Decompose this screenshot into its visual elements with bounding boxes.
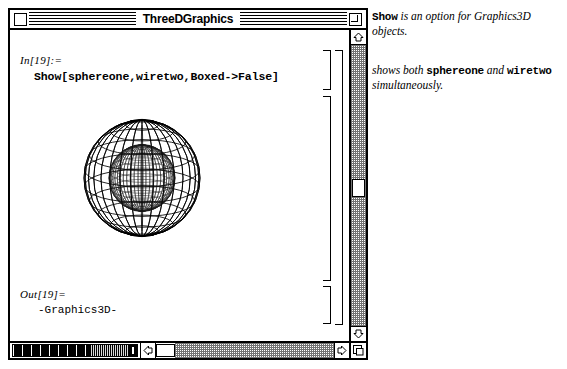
titlebar-stripes-right xyxy=(240,12,347,26)
annotation-segment: and xyxy=(484,64,507,76)
output-cell-label: Out[19]= xyxy=(20,288,66,300)
vertical-scroll-thumb[interactable] xyxy=(352,179,365,197)
resize-grip-glyph xyxy=(353,345,364,356)
titlebar-stripes-left xyxy=(29,12,136,26)
graphics-output-spheres[interactable] xyxy=(82,118,202,238)
close-box-icon[interactable] xyxy=(14,13,27,26)
annotation-segment: wiretwo xyxy=(507,65,552,77)
magnification-handle[interactable] xyxy=(131,346,135,355)
three-d-spheres-svg xyxy=(82,118,202,238)
cell-bracket-input[interactable] xyxy=(323,50,331,90)
scroll-left-arrow-icon[interactable] xyxy=(140,343,156,358)
annotation-segment: simultaneously. xyxy=(372,79,443,91)
cell-bracket-output[interactable] xyxy=(323,286,331,324)
window-titlebar[interactable]: ThreeDGraphics xyxy=(10,10,366,30)
horizontal-scrollbar-bar[interactable] xyxy=(10,341,366,358)
notebook-content-pane[interactable]: In[19]:= Show[sphereone,wiretwo,Boxed->F… xyxy=(10,30,349,341)
input-cell-code[interactable]: Show[sphereone,wiretwo,Boxed->False] xyxy=(34,70,279,83)
cell-bracket-group[interactable] xyxy=(335,50,343,325)
notebook-window: ThreeDGraphics In[19]:= Show[sphereone,w… xyxy=(8,8,368,360)
annotation-show-option: Show is an option for Graphics3D objects… xyxy=(372,10,562,38)
scroll-right-arrow-icon[interactable] xyxy=(334,343,350,358)
annotation-shows-both: shows both sphereone and wiretwo simulta… xyxy=(372,64,562,92)
magnification-filled xyxy=(13,345,90,356)
output-cell-code: -Graphics3D- xyxy=(38,304,117,316)
annotation-segment: shows both xyxy=(372,64,426,76)
zoom-box-icon[interactable] xyxy=(349,13,362,26)
horizontal-scroll-thumb[interactable] xyxy=(156,344,175,357)
left-arrow-glyph xyxy=(143,345,153,356)
vertical-scrollbar[interactable] xyxy=(349,30,366,341)
down-arrow-glyph xyxy=(353,329,364,339)
right-arrow-glyph xyxy=(337,345,347,356)
window-title: ThreeDGraphics xyxy=(136,12,241,26)
magnification-remainder xyxy=(90,345,129,356)
annotation-segment: Show xyxy=(372,11,398,23)
grow-box-icon[interactable] xyxy=(350,343,366,358)
up-arrow-glyph xyxy=(353,32,364,42)
scroll-down-arrow-icon[interactable] xyxy=(351,326,366,341)
horizontal-scroll-track[interactable] xyxy=(175,343,334,358)
magnification-slider[interactable] xyxy=(12,344,138,357)
input-cell-label: In[19]:= xyxy=(20,54,62,66)
annotation-segment: sphereone xyxy=(426,65,484,77)
scroll-up-arrow-icon[interactable] xyxy=(351,30,366,45)
cell-bracket-graphics[interactable] xyxy=(323,96,331,281)
